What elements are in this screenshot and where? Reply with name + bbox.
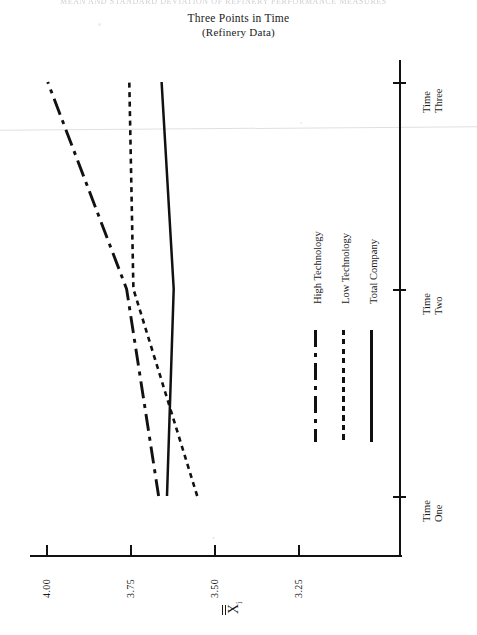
series-line-low-technology [129,82,197,496]
series-line-high-technology [48,82,159,496]
series-line-total-company [162,82,174,496]
figure-chart-three-points-in-time: MEAN AND STANDARD DEVIATION OF REFINERY … [0,0,477,635]
legend-label-low-technology: Low Technology [340,233,351,304]
legend-swatch-high-technology [314,330,317,442]
legend-label-total-company: Total Company [368,239,379,304]
legend-label-high-technology: High Technology [312,231,323,304]
legend-swatch-total-company [370,330,373,442]
legend-swatch-low-technology [342,330,345,442]
chart-plot-area [0,0,477,635]
